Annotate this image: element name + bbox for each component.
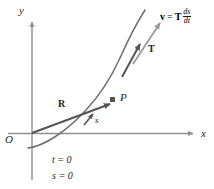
velocity-symbol: v [160,11,165,22]
arc-length-direction-arrow [84,114,93,125]
velocity-equation: v = T ds dt [160,8,191,26]
arc-length-label: s [95,116,99,125]
y-axis-label: y [19,5,24,16]
speed-fraction: ds dt [182,8,191,26]
figure-canvas [0,0,214,189]
position-vector-label: R [58,99,65,109]
vector-calculus-figure: y x O P R T s t = 0 s = 0 v = T ds dt [0,0,214,189]
fraction-denominator: dt [183,16,191,25]
point-p-marker [110,97,115,102]
initial-arc-label: s = 0 [52,171,73,181]
tangent-symbol: T [175,11,182,22]
point-p-label: P [120,92,127,103]
origin-label: O [5,134,13,145]
initial-time-label: t = 0 [52,155,72,165]
tangent-vector-label: T [148,44,155,54]
fraction-numerator: ds [182,8,191,16]
x-axis-label: x [201,128,206,139]
equals-sign: = [167,11,173,22]
velocity-vector-v [133,23,160,64]
